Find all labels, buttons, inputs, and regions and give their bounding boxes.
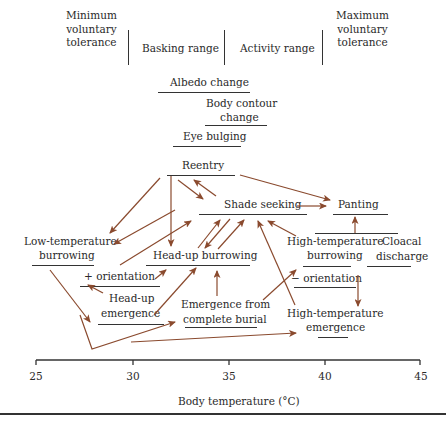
- temperature-axis: [0, 0, 446, 433]
- bottom-rule: [0, 413, 446, 415]
- tick-45: 45: [406, 370, 436, 382]
- x-axis-label: Body temperature (°C): [178, 395, 300, 408]
- tick-30: 30: [118, 370, 148, 382]
- tick-25: 25: [21, 370, 51, 382]
- tick-35: 35: [214, 370, 244, 382]
- tick-40: 40: [310, 370, 340, 382]
